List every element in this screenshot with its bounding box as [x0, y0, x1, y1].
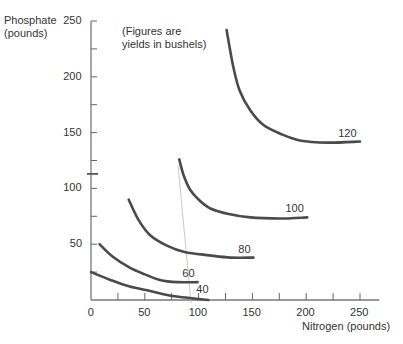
y-tick-label: 150 [63, 126, 81, 139]
isoquant-curve-80 [129, 200, 254, 258]
y-tick-label: 50 [70, 237, 82, 250]
y-tick-label: 250 [63, 14, 81, 27]
annotation-line2: yields in bushels) [122, 38, 206, 51]
x-tick-label: 250 [350, 306, 368, 319]
x-tick-label: 150 [243, 306, 261, 319]
curve-label-100: 100 [285, 202, 303, 215]
y-tick-label: 100 [63, 181, 81, 194]
x-tick-label: 200 [296, 306, 314, 319]
annotation-line1: (Figures are [122, 25, 181, 38]
curve-label-40: 40 [196, 283, 208, 296]
curve-label-120: 120 [338, 127, 356, 140]
x-tick-label: 100 [189, 306, 207, 319]
isoquant-chart: Phosphate (pounds) (Figures are yields i… [0, 0, 403, 344]
y-axis-label-line2: (pounds) [4, 27, 47, 40]
y-tick-label: 200 [63, 70, 81, 83]
x-tick-label: 0 [88, 306, 94, 319]
y-axis-label-line1: Phosphate [4, 14, 57, 27]
curve-label-60: 60 [182, 267, 194, 280]
x-tick-label: 50 [138, 306, 150, 319]
curve-label-80: 80 [238, 243, 250, 256]
x-axis-label: Nitrogen (pounds) [302, 320, 390, 333]
